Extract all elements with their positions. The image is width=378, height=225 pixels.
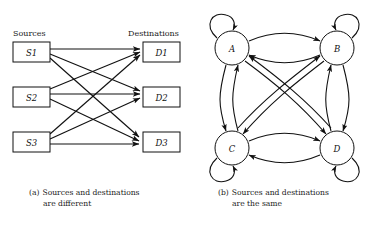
edge-c-to-a [233,65,238,131]
node-b[interactable]: B [320,31,354,65]
edge-s3-d2 [50,98,140,139]
caption-b-line2: are the same [218,199,329,210]
edge-group-s1 [50,49,140,137]
node-s3-label: S3 [26,138,37,148]
node-s1[interactable]: S1 [13,42,50,62]
edge-a-to-b [249,34,320,42]
destinations-header: Destinations [128,29,179,38]
edge-d-to-a [249,56,331,128]
node-d-label: D [333,144,341,154]
edge-b-to-d [343,65,349,131]
figure-root: Sources Destinations [0,0,378,225]
node-d2-label: D2 [154,93,167,103]
node-d1-label: D1 [154,48,167,58]
edge-c-to-b [238,56,320,128]
node-s3[interactable]: S3 [13,132,50,152]
caption-b-tag: (b) [218,188,229,197]
edge-d-to-b [326,65,331,131]
sources-header: Sources [13,29,46,38]
edge-b-to-a [249,55,320,63]
panel-a-bipartite-graph: Sources Destinations [13,29,180,152]
caption-panel-a: (a)Sources and destinations are differen… [29,188,140,209]
edge-b-to-c [243,61,324,134]
node-d3[interactable]: D3 [143,132,180,152]
caption-panel-b: (b)Sources and destinations are the same [218,188,329,209]
node-d3-label: D3 [154,138,167,148]
caption-a-tag: (a) [29,188,39,197]
edge-s1-d2 [50,54,140,91]
edge-s2-d3 [50,99,139,141]
caption-a-line2: are different [29,199,140,210]
node-a[interactable]: A [215,31,249,65]
panel-b-complete-digraph: A B C D [210,14,359,181]
node-c-label: C [229,144,236,154]
edge-group-s3 [50,55,140,144]
caption-b-line1: Sources and destinations [232,188,329,197]
node-b-label: B [333,44,340,54]
caption-a-line1: Sources and destinations [42,188,139,197]
node-d2[interactable]: D2 [143,87,180,107]
edge-group-s2 [50,52,140,141]
node-s1-label: S1 [26,48,37,58]
node-c[interactable]: C [215,131,249,165]
node-s2-label: S2 [26,93,37,103]
node-s2[interactable]: S2 [13,87,50,107]
edge-c-to-d [249,134,320,142]
edge-d-to-c [249,155,320,163]
edge-s1-d3 [50,58,139,137]
edge-a-to-d [245,61,326,134]
node-a-label: A [228,44,235,54]
edge-a-to-c [220,65,226,131]
node-d1[interactable]: D1 [143,42,180,62]
node-d[interactable]: D [320,131,354,165]
